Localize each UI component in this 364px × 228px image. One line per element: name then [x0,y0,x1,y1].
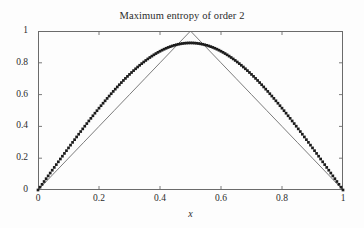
data-point-marker [334,177,337,180]
data-point-marker [319,158,322,161]
data-point-marker [77,133,80,136]
plot-area [38,31,343,190]
data-point-marker [342,189,345,192]
data-point-marker [299,130,302,133]
data-point-marker [73,138,76,141]
x-tick-label: 0 [36,194,41,204]
y-tick-label: 0.6 [16,90,33,100]
data-point-marker [96,109,99,112]
data-point-marker [39,186,42,189]
data-point-marker [340,186,343,189]
data-point-marker [49,172,52,175]
x-tick-label: 0.6 [215,194,227,204]
data-point-marker [102,102,105,105]
x-tick-label: 0.2 [93,194,105,204]
data-point-marker [301,133,304,136]
data-point-marker [327,169,330,172]
data-point-marker [63,152,66,155]
data-point-marker [305,138,308,141]
data-point-marker [94,112,97,115]
data-point-marker [45,177,48,180]
data-point-marker [106,97,109,100]
data-point-marker [87,120,90,123]
data-point-marker [266,90,269,93]
data-point-marker [325,166,328,169]
chart-title: Maximum entropy of order 2 [0,10,364,21]
data-point-marker [270,95,273,98]
data-point-marker [321,160,324,163]
plot-svg [38,31,343,190]
data-point-marker [311,147,314,150]
figure-canvas: Maximum entropy of order 2 00.20.40.60.8… [0,0,364,228]
data-point-marker [98,107,101,110]
data-point-marker [317,155,320,158]
data-point-marker [309,144,312,147]
data-point-marker [277,102,280,105]
data-point-marker [37,189,40,192]
data-point-marker [307,141,310,144]
series-maximum-entropy-order-2 [37,42,345,192]
data-point-marker [47,175,50,178]
data-point-marker [315,152,318,155]
data-point-marker [108,95,111,98]
data-point-marker [297,128,300,131]
x-axis-label: x [38,208,343,219]
data-point-marker [65,149,68,152]
data-point-marker [67,147,70,150]
data-point-marker [285,112,288,115]
data-point-marker [289,117,292,120]
data-point-marker [275,99,278,102]
y-tick-label: 0 [23,185,33,195]
x-tick-label: 1 [341,194,346,204]
y-tick-label: 0.4 [16,121,33,131]
data-point-marker [85,122,88,125]
data-point-marker [338,183,341,186]
data-point-marker [313,149,316,152]
data-point-marker [291,120,294,123]
data-point-marker [51,169,54,172]
y-tick-label: 0.2 [16,153,33,163]
data-point-marker [71,141,74,144]
data-point-marker [100,104,103,107]
data-point-marker [283,109,286,112]
data-point-marker [110,92,113,95]
data-point-marker [295,125,298,128]
series-triangular-bound [38,31,343,190]
data-point-marker [69,144,72,147]
data-point-marker [323,163,326,166]
data-point-marker [79,130,82,133]
y-tick-label: 1 [23,26,33,36]
data-point-marker [61,155,64,158]
data-point-marker [287,114,290,117]
data-point-marker [41,183,44,186]
data-point-marker [268,92,271,95]
x-axis-tick-labels: 00.20.40.60.81 [38,194,343,208]
y-tick-label: 0.8 [16,58,33,68]
data-point-marker [43,180,46,183]
data-point-marker [59,158,62,161]
x-tick-label: 0.8 [276,194,288,204]
data-point-marker [279,104,282,107]
data-point-marker [55,163,58,166]
data-point-marker [281,107,284,110]
axes-box [39,32,343,190]
data-point-marker [92,114,95,117]
data-point-marker [75,136,78,139]
data-point-marker [53,166,56,169]
data-point-marker [336,180,339,183]
data-point-marker [329,172,332,175]
y-axis-tick-labels: 00.20.40.60.81 [0,31,33,190]
axis-ticks [39,32,343,190]
data-point-marker [273,97,276,100]
x-tick-label: 0.4 [154,194,166,204]
data-point-marker [303,136,306,139]
data-point-marker [57,160,60,163]
data-point-marker [104,99,107,102]
data-point-marker [331,175,334,178]
data-point-marker [83,125,86,128]
data-point-marker [90,117,93,120]
data-point-marker [293,122,296,125]
data-point-marker [81,128,84,131]
